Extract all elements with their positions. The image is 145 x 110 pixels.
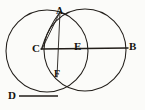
point-label-f: F xyxy=(54,68,60,79)
point-label-e: E xyxy=(74,41,81,52)
segment-line-ac-straight xyxy=(42,12,60,49)
segment-line-cb xyxy=(41,48,128,49)
point-label-b: B xyxy=(129,41,136,52)
point-label-a: A xyxy=(56,5,63,16)
point-label-d: D xyxy=(8,90,16,101)
figure-canvas xyxy=(0,0,145,110)
point-label-c: C xyxy=(32,43,40,54)
geometry-figure: A B C D E F xyxy=(0,0,145,110)
